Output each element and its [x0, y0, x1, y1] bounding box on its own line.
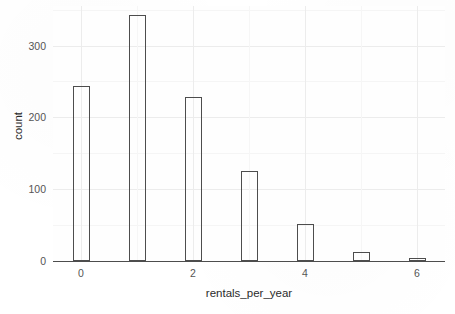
x-tick-label: 4 [302, 268, 308, 279]
x-tick-label: 0 [78, 268, 84, 279]
y-tick-label: 0 [40, 256, 46, 267]
plot-panel [53, 6, 445, 261]
y-axis-title: count [12, 96, 24, 156]
bar [353, 252, 370, 261]
x-axis-line [53, 261, 445, 262]
y-tick-label: 300 [28, 41, 46, 52]
gridline-major-x [417, 6, 418, 261]
gridline-major-x [305, 6, 306, 261]
x-tick-label: 6 [414, 268, 420, 279]
x-axis-title: rentals_per_year [53, 287, 445, 299]
y-tick-label: 200 [28, 112, 46, 123]
x-axis-tick-labels: 0246 [53, 268, 445, 284]
y-tick-label: 100 [28, 184, 46, 195]
bar [241, 171, 258, 261]
bar [73, 86, 90, 261]
histogram-figure: 0100200300 0246 rentals_per_year count [0, 0, 455, 314]
bar [185, 97, 202, 261]
bar [129, 15, 146, 261]
bar [297, 224, 314, 261]
x-tick-label: 2 [190, 268, 196, 279]
gridline-minor-x [361, 6, 362, 261]
